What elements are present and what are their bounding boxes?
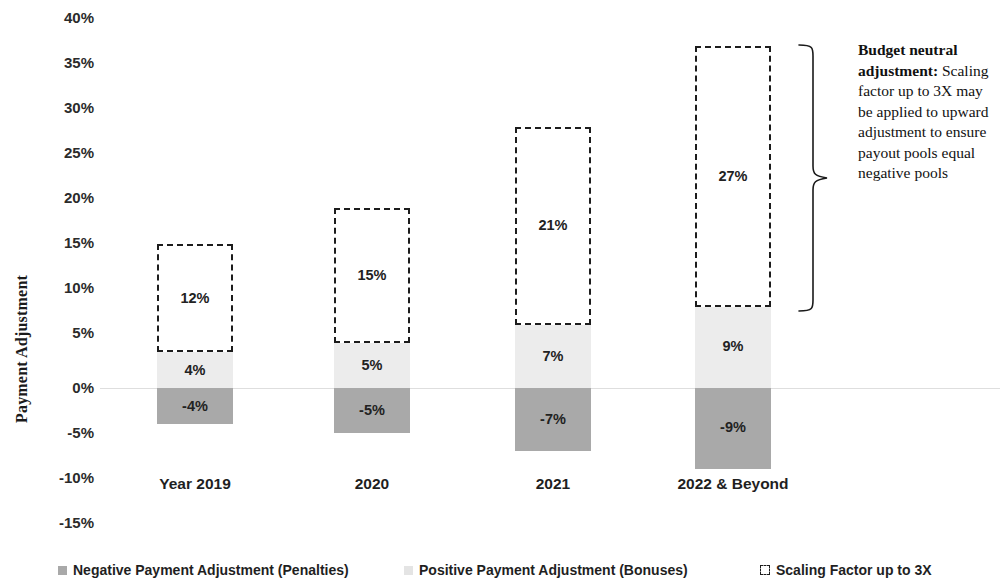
scaling-factor-label-3: 27% <box>697 168 769 184</box>
legend-swatch-positive-icon <box>404 566 413 575</box>
annotation-body: Scaling factor up to 3X may be applied t… <box>858 62 988 182</box>
positive-bar-1[interactable]: 5% <box>334 343 410 388</box>
positive-label-0: 4% <box>157 362 233 378</box>
scaling-factor-label-2: 21% <box>517 217 589 233</box>
legend-label-scaling-factor: Scaling Factor up to 3X <box>776 562 932 578</box>
legend-label-negative: Negative Payment Adjustment (Penalties) <box>73 562 349 578</box>
legend-item-positive-payment-adjustment[interactable]: Positive Payment Adjustment (Bonuses) <box>404 562 688 578</box>
positive-bar-2[interactable]: 7% <box>515 325 591 388</box>
scaling-factor-bar-3[interactable]: 27% <box>695 46 771 307</box>
negative-bar-0[interactable]: -4% <box>157 388 233 424</box>
bar-group-2022-beyond: 27% 9% -9% <box>695 0 771 530</box>
legend-item-scaling-factor[interactable]: Scaling Factor up to 3X <box>760 562 932 578</box>
negative-label-3: -9% <box>695 419 771 435</box>
legend-swatch-negative-icon <box>58 566 67 575</box>
positive-label-1: 5% <box>334 357 410 373</box>
x-category-label-2: 2021 <box>503 475 603 493</box>
x-category-label-3: 2022 & Beyond <box>663 475 803 493</box>
negative-label-2: -7% <box>515 411 591 427</box>
negative-label-0: -4% <box>157 398 233 414</box>
scaling-factor-label-1: 15% <box>336 267 408 283</box>
negative-bar-3[interactable]: -9% <box>695 388 771 469</box>
positive-label-2: 7% <box>515 348 591 364</box>
bar-group-2020: 15% 5% -5% <box>334 0 410 530</box>
legend-item-negative-payment-adjustment[interactable]: Negative Payment Adjustment (Penalties) <box>58 562 349 578</box>
scaling-factor-bar-0[interactable]: 12% <box>157 244 233 352</box>
positive-label-3: 9% <box>695 338 771 354</box>
negative-bar-1[interactable]: -5% <box>334 388 410 433</box>
annotation-budget-neutral-adjustment: Budget neutral adjustment: Scaling facto… <box>858 40 1000 184</box>
negative-label-1: -5% <box>334 402 410 418</box>
scaling-factor-bar-2[interactable]: 21% <box>515 127 591 325</box>
plot-area: 12% 4% -4% 15% 5% -5% 21% <box>0 0 1001 530</box>
chart-legend: Negative Payment Adjustment (Penalties) … <box>0 558 1001 588</box>
positive-bar-0[interactable]: 4% <box>157 352 233 388</box>
chart-canvas: Payment Adjustment 40% 35% 30% 25% 20% 1… <box>0 0 1001 588</box>
legend-swatch-scaling-factor-icon <box>760 565 770 575</box>
scaling-factor-label-0: 12% <box>159 290 231 306</box>
bar-group-year-2019: 12% 4% -4% <box>157 0 233 530</box>
x-category-label-1: 2020 <box>322 475 422 493</box>
bar-group-2021: 21% 7% -7% <box>515 0 591 530</box>
legend-label-positive: Positive Payment Adjustment (Bonuses) <box>419 562 688 578</box>
x-category-label-0: Year 2019 <box>145 475 245 493</box>
positive-bar-3[interactable]: 9% <box>695 307 771 388</box>
curly-brace-icon <box>797 42 833 314</box>
negative-bar-2[interactable]: -7% <box>515 388 591 451</box>
scaling-factor-bar-1[interactable]: 15% <box>334 208 410 343</box>
